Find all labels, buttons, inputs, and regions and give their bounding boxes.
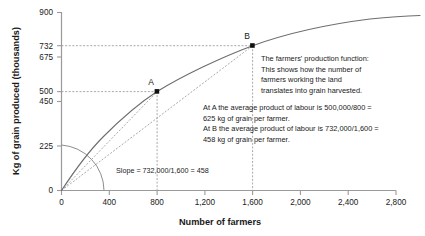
ap-annotation-line-2: 625 kg of grain per farmer. [203, 114, 290, 123]
ytick-label-0: 0 [48, 186, 53, 195]
xtick-label-2400: 2,400 [338, 198, 359, 207]
ap-annotation-line-3: At B the average product of labour is 73… [203, 124, 379, 133]
production-function-chart: 0 225 450 500 675 732 900 0 400 800 1,20… [0, 0, 425, 236]
ap-annotation-line-1: At A the average product of labour is 50… [203, 103, 372, 112]
xtick-label-1600: 1,600 [242, 198, 263, 207]
xtick-label-800: 800 [150, 198, 164, 207]
xtick-label-2000: 2,000 [290, 198, 311, 207]
ytick-label-225: 225 [39, 142, 53, 151]
ytick-label-732: 732 [39, 42, 53, 51]
pf-annotation-line-2: This shows how the number of [261, 65, 362, 74]
slope-annotation: Slope = 732,000/1,600 = 458 [116, 166, 209, 175]
xtick-label-400: 400 [102, 198, 116, 207]
chart-svg: 0 225 450 500 675 732 900 0 400 800 1,20… [0, 0, 425, 236]
data-point-b-marker [250, 43, 255, 48]
data-point-a-label: A [148, 77, 154, 87]
xtick-label-1200: 1,200 [195, 198, 216, 207]
ytick-label-500: 500 [39, 87, 53, 96]
y-axis-title: Kg of grain produced (thousands) [11, 27, 21, 175]
xtick-label-0: 0 [59, 198, 64, 207]
xtick-label-2800: 2,800 [386, 198, 407, 207]
ytick-label-900: 900 [39, 8, 53, 17]
pf-annotation-line-4: translates into grain harvested. [261, 86, 362, 95]
pf-annotation-line-3: farmers working the land [261, 75, 342, 84]
ytick-label-450: 450 [39, 97, 53, 106]
ytick-label-675: 675 [39, 53, 53, 62]
data-point-b-label: B [244, 31, 250, 41]
data-point-a-marker [155, 89, 160, 94]
x-axis-title: Number of farmers [179, 217, 261, 227]
pf-annotation-line-1: The farmers' production function: [261, 54, 369, 63]
ap-annotation-line-4: 458 kg of grain per farmer. [203, 135, 290, 144]
